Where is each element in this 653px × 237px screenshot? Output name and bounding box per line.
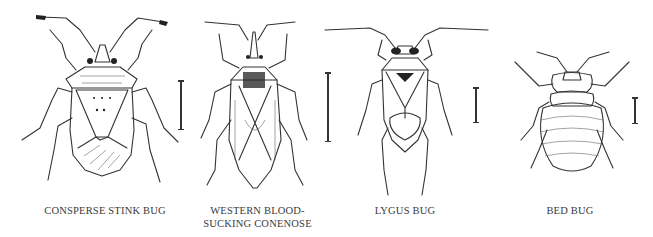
scale-bar [180, 80, 182, 130]
conenose-illustration [195, 0, 335, 190]
panel-lygus-bug: LYGUS BUG [320, 0, 490, 237]
caption-consperse-stink-bug: CONSPERSE STINK BUG [25, 204, 185, 217]
bed-bug-illustration [495, 0, 653, 190]
scale-bar [634, 97, 636, 124]
scale-bar [475, 87, 477, 123]
panel-bed-bug: BED BUG [495, 0, 653, 237]
panel-western-blood-sucking-conenose: WESTERN BLOOD- SUCKING CONENOSE [195, 0, 335, 237]
caption-western-blood-sucking-conenose: WESTERN BLOOD- SUCKING CONENOSE [195, 204, 320, 230]
caption-bed-bug: BED BUG [515, 204, 625, 217]
stink-bug-illustration [0, 0, 205, 190]
panel-consperse-stink-bug: CONSPERSE STINK BUG [0, 0, 205, 237]
lygus-bug-illustration [320, 0, 490, 190]
caption-lygus-bug: LYGUS BUG [350, 204, 460, 217]
